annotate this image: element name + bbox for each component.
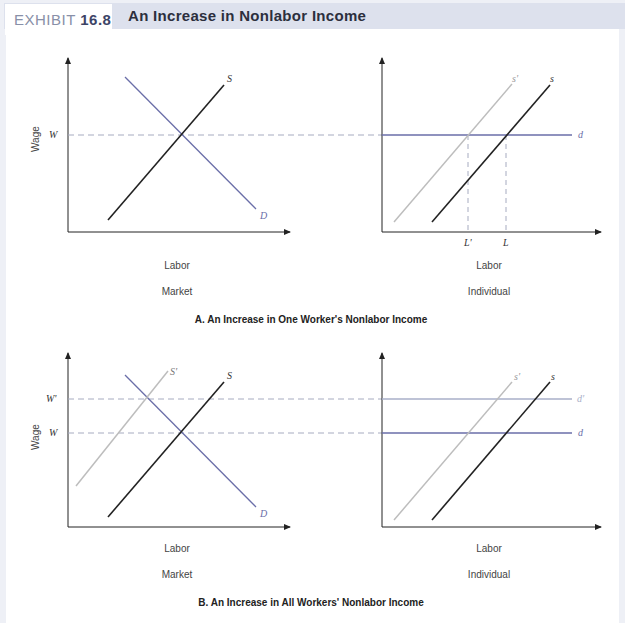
- shifted-supply-label: S': [170, 366, 177, 377]
- x-axis-label: Labor: [476, 543, 502, 554]
- chart-subtitle: Individual: [468, 569, 510, 580]
- supply-curve: [108, 382, 224, 517]
- demand-label: D: [260, 210, 267, 221]
- shifted-supply-curve: [76, 371, 168, 486]
- shifted-supply-label: s': [514, 371, 520, 382]
- panel-b-market-chart: [68, 353, 382, 527]
- panel-b-individual-chart: [382, 353, 601, 527]
- supply-label: S: [227, 73, 232, 84]
- shifted-demand-label: d': [577, 393, 584, 404]
- wage-label: W: [49, 129, 57, 140]
- panel-a-caption: A. An Increase in One Worker's Nonlabor …: [195, 314, 427, 325]
- x-axis-label: Labor: [164, 543, 190, 554]
- chart-subtitle: Individual: [468, 286, 510, 297]
- supply-curve: [432, 382, 550, 520]
- x-axis-label: Labor: [476, 260, 502, 271]
- wage-label: W: [49, 427, 57, 438]
- shifted-supply-curve: [394, 84, 512, 222]
- demand-curve: [125, 375, 256, 507]
- supply-label: s: [550, 73, 554, 84]
- chart-subtitle: Market: [162, 569, 193, 580]
- demand-curve: [125, 77, 256, 209]
- panel-b-caption: B. An Increase in All Workers' Nonlabor …: [198, 597, 423, 608]
- supply-label: S: [227, 370, 232, 381]
- supply-curve: [108, 85, 224, 220]
- shifted-supply-label: s': [512, 73, 518, 84]
- supply-label: s: [551, 371, 555, 382]
- y-axis-label: Wage: [30, 424, 41, 450]
- demand-label: d: [578, 129, 583, 140]
- demand-label: d: [578, 427, 583, 438]
- shifted-labor-label: L': [464, 237, 472, 248]
- labor-label: L: [503, 237, 509, 248]
- panel-a-individual-chart: [382, 58, 601, 232]
- shifted-wage-label: W': [46, 393, 56, 404]
- y-axis-label: Wage: [30, 126, 41, 152]
- supply-curve: [432, 85, 550, 222]
- demand-label: D: [260, 508, 267, 519]
- shifted-supply-curve: [394, 382, 512, 520]
- panel-a-market-chart: [68, 58, 382, 232]
- chart-subtitle: Market: [162, 286, 193, 297]
- diagram-graphics: [0, 0, 625, 623]
- x-axis-label: Labor: [164, 260, 190, 271]
